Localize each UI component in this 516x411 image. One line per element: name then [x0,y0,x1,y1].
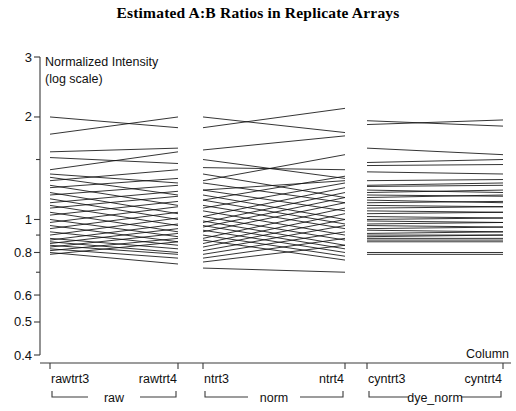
data-line [367,227,503,229]
data-line [367,183,503,185]
data-line [367,232,503,234]
x-tick-label-cyntrt3: cyntrt3 [368,372,406,386]
data-line [367,217,503,218]
data-line [367,121,503,126]
data-line [367,120,503,125]
data-line [367,212,503,213]
group-bracket-left [52,391,88,397]
group-bracket-left [205,391,248,397]
data-line [367,207,503,208]
data-line [367,180,503,181]
data-line [50,152,178,170]
data-line [367,226,503,228]
data-line [50,117,178,134]
x-axis-title: Column [466,347,509,361]
data-line [50,252,178,264]
data-line [50,148,178,152]
x-tick-label-rawtrt4: rawtrt4 [139,372,177,386]
y-tick-label: 0.4 [14,348,32,363]
data-line [367,160,503,163]
data-line [367,221,503,223]
data-line [367,185,503,186]
y-tick-label: 0.5 [14,314,32,329]
data-line [367,165,503,166]
group-bracket-right [461,391,501,397]
group-bracket-left [369,391,409,397]
y-tick-label: 1 [25,212,32,227]
data-line [203,176,345,200]
data-line [367,172,503,174]
y-tick-label: 2 [25,109,32,124]
x-tick-label-cyntrt4: cyntrt4 [464,372,502,386]
data-line [367,222,503,224]
data-line [367,148,503,155]
data-line [203,245,345,262]
group-bracket-right [140,391,176,397]
data-line [203,160,345,179]
chart-plot: 3210.80.60.50.4rawtrt3rawtrt4ntrt3ntrt4c… [0,0,516,411]
group-label-dye_norm: dye_norm [407,391,463,405]
y-tick-label: 0.6 [14,288,32,303]
data-lines-layer [50,108,503,272]
data-line [203,136,345,150]
data-line [50,191,178,202]
x-tick-label-ntrt4: ntrt4 [319,372,344,386]
x-tick-label-rawtrt3: rawtrt3 [51,372,89,386]
data-line [203,183,345,208]
group-label-norm: norm [260,391,288,405]
chart-container: Estimated A:B Ratios in Replicate Arrays… [0,0,516,411]
axis-labels-layer: 3210.80.60.50.4rawtrt3rawtrt4ntrt3ntrt4c… [14,50,509,406]
data-line [50,117,178,128]
data-line [50,185,178,195]
y-tick-label: 3 [25,50,32,65]
x-tick-label-ntrt3: ntrt3 [204,372,229,386]
group-bracket-right [300,391,343,397]
data-line [203,268,345,272]
data-line [367,230,503,232]
data-line [50,229,178,244]
data-line [367,218,503,219]
y-tick-label: 0.8 [14,245,32,260]
group-label-raw: raw [104,391,125,405]
